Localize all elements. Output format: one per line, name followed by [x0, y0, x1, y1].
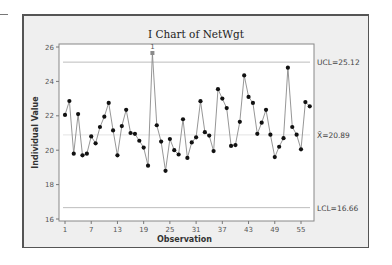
- lcl-label: LCL=16.66: [317, 204, 359, 213]
- x-axis-title: Observation: [157, 235, 212, 244]
- x-tick-label: 7: [89, 226, 93, 234]
- x-tick-label: 19: [139, 226, 148, 234]
- data-point: [63, 113, 67, 117]
- y-tick-label: 20: [45, 147, 54, 155]
- data-point: [133, 132, 137, 136]
- data-point: [185, 156, 189, 160]
- x-tick-label: 31: [192, 226, 201, 234]
- data-point: [172, 148, 176, 152]
- x-tick-label: 49: [270, 226, 279, 234]
- y-tick-label: 26: [45, 44, 54, 52]
- data-point: [229, 144, 233, 148]
- x-tick-label: 55: [297, 226, 306, 234]
- data-point: [273, 155, 277, 159]
- data-point: [211, 149, 215, 153]
- data-point: [107, 101, 111, 105]
- data-point: [111, 128, 115, 132]
- i-chart: 161820222426171319253137434955Observatio…: [0, 0, 392, 265]
- data-point: [146, 164, 150, 168]
- data-point: [220, 97, 224, 101]
- data-point: [225, 106, 229, 110]
- data-point: [216, 87, 220, 91]
- data-point: [155, 123, 159, 127]
- data-point: [115, 153, 119, 157]
- data-point: [198, 99, 202, 103]
- data-point: [194, 135, 198, 139]
- data-point: [203, 130, 207, 134]
- data-point: [124, 108, 128, 112]
- data-point: [255, 132, 259, 136]
- data-point: [102, 115, 106, 119]
- data-point: [251, 101, 255, 105]
- data-point: [72, 152, 76, 156]
- data-point: [120, 124, 124, 128]
- data-point: [238, 120, 242, 124]
- data-point: [177, 152, 181, 156]
- data-point: [260, 121, 264, 125]
- x-tick-label: 1: [63, 226, 67, 234]
- x-tick-label: 43: [244, 226, 253, 234]
- data-point: [163, 169, 167, 173]
- data-point: [142, 146, 146, 150]
- y-axis-title: Individual Value: [31, 96, 40, 169]
- data-point: [308, 104, 312, 108]
- data-point: [168, 137, 172, 141]
- x-tick-label: 13: [113, 226, 122, 234]
- data-point: [159, 140, 163, 144]
- data-point: [242, 73, 246, 77]
- data-point: [268, 133, 272, 137]
- data-point: [290, 125, 294, 129]
- data-point: [299, 147, 303, 151]
- data-point: [295, 133, 299, 137]
- out-of-control-flag: 1: [150, 43, 154, 51]
- data-point: [277, 145, 281, 149]
- data-point: [207, 133, 211, 137]
- y-tick-label: 24: [45, 78, 54, 86]
- data-point: [67, 99, 71, 103]
- data-point: [181, 117, 185, 121]
- data-point: [98, 125, 102, 129]
- data-point: [286, 66, 290, 70]
- ucl-label: UCL=25.12: [317, 58, 360, 67]
- data-point: [80, 153, 84, 157]
- data-point: [89, 134, 93, 138]
- data-point: [281, 136, 285, 140]
- data-point: [85, 152, 89, 156]
- out-of-control-point: [150, 51, 154, 55]
- data-point: [137, 139, 141, 143]
- x-tick-label: 25: [165, 226, 174, 234]
- y-tick-label: 22: [45, 112, 54, 120]
- center-label: X̄=20.89: [317, 131, 350, 140]
- data-point: [303, 100, 307, 104]
- y-tick-label: 16: [45, 216, 54, 224]
- data-point: [128, 131, 132, 135]
- data-point: [233, 143, 237, 147]
- x-tick-label: 37: [218, 226, 227, 234]
- data-point: [76, 112, 80, 116]
- y-tick-label: 18: [45, 181, 54, 189]
- data-point: [264, 108, 268, 112]
- data-point: [246, 95, 250, 99]
- data-point: [190, 140, 194, 144]
- data-point: [93, 141, 97, 145]
- plot-area: [59, 44, 314, 221]
